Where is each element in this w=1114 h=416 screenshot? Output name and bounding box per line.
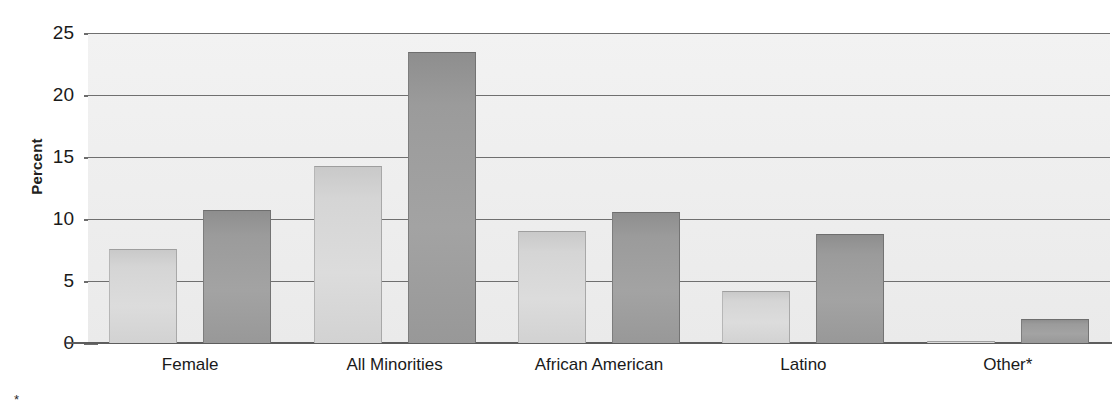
footnote-marker: *: [14, 392, 19, 407]
bar-latino-light-series: [722, 291, 790, 343]
bar-african-american-dark-series: [612, 212, 680, 343]
x-category-label: All Minorities: [346, 355, 442, 375]
y-tick-label: 15: [40, 147, 74, 166]
bars-layer: [88, 0, 1110, 416]
bar-all-minorities-light-series: [314, 166, 382, 343]
y-tick-label: 25: [40, 23, 74, 42]
bar-female-light-series: [109, 249, 177, 343]
x-category-label: African American: [535, 355, 664, 375]
bar-other-light-series: [927, 341, 995, 343]
y-tick-label: 5: [40, 271, 74, 290]
y-axis-ticks: 0510152025: [22, 0, 74, 416]
bar-chart: Percent 0510152025 FemaleAll MinoritiesA…: [0, 0, 1114, 416]
bar-female-dark-series: [203, 210, 271, 343]
x-category-label: Latino: [780, 355, 826, 375]
bar-all-minorities-dark-series: [408, 52, 476, 343]
bar-other-dark-series: [1021, 319, 1089, 343]
bar-latino-dark-series: [816, 234, 884, 343]
x-axis-category-labels: FemaleAll MinoritiesAfrican AmericanLati…: [88, 355, 1110, 395]
x-category-label: Other*: [983, 355, 1032, 375]
bar-african-american-light-series: [518, 231, 586, 343]
y-tick-label: 20: [40, 85, 74, 104]
y-tick-label: 10: [40, 209, 74, 228]
x-category-label: Female: [162, 355, 219, 375]
